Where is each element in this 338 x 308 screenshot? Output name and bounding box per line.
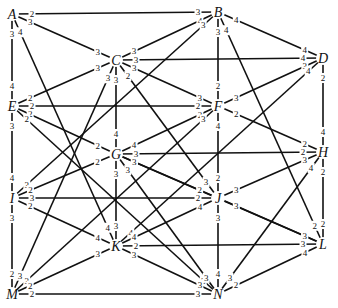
edge-weight-D-K-D: 4 bbox=[306, 66, 311, 76]
edge-weight-F-M-F: 3 bbox=[201, 114, 206, 124]
edge-weight-C-G-C: 3 bbox=[114, 75, 119, 85]
edge-weight-G-K-K: 3 bbox=[114, 221, 119, 231]
edge-weight-B-I-B: 3 bbox=[201, 20, 206, 30]
edge-weight-I-M-I: 3 bbox=[10, 213, 15, 223]
edge-weight-G-N-N: 3 bbox=[204, 273, 209, 283]
edge-weight-F-H-F: 2 bbox=[234, 109, 239, 119]
edge-weight-A-E-E: 4 bbox=[10, 81, 15, 91]
edge-G-H bbox=[116, 152, 323, 154]
edge-weight-E-I-E: 3 bbox=[10, 121, 15, 131]
node-C: C bbox=[111, 53, 121, 68]
edge-weight-E-I-I: 4 bbox=[10, 173, 15, 183]
edge-G-N bbox=[116, 154, 218, 294]
edge-weight-H-N-N: 3 bbox=[228, 273, 233, 283]
edge-weight-H-J-J: 3 bbox=[234, 185, 239, 195]
edge-weight-C-G-G: 4 bbox=[114, 129, 119, 139]
edge-weight-C-F-C: 3 bbox=[132, 63, 137, 73]
edge-weight-E-G-G: 2 bbox=[96, 141, 101, 151]
edge-weight-H-L-L: 2 bbox=[321, 219, 326, 229]
edge-C-D bbox=[116, 58, 323, 60]
edge-weight-B-F-B: 3 bbox=[216, 27, 221, 37]
edge-weight-J-N-N: 4 bbox=[216, 269, 221, 279]
edge-weight-G-I-G: 2 bbox=[95, 157, 100, 167]
edge-weight-A-K-K: 4 bbox=[106, 223, 111, 233]
weighted-graph: 2333344443443242333432333423333324442222… bbox=[0, 0, 338, 308]
edge-weight-B-L-B: 4 bbox=[224, 25, 229, 35]
node-H: H bbox=[317, 145, 329, 160]
edge-H-N bbox=[218, 152, 323, 294]
node-K: K bbox=[110, 239, 121, 254]
edge-weight-A-C-A: 3 bbox=[28, 17, 33, 27]
edge-weight-G-N-G: 3 bbox=[126, 165, 131, 175]
edge-weight-H-L-H: 2 bbox=[321, 167, 326, 177]
node-E: E bbox=[7, 99, 17, 114]
edge-weight-G-K-G: 3 bbox=[114, 169, 119, 179]
edge-weight-F-J-F: 4 bbox=[216, 121, 221, 131]
node-G: G bbox=[111, 147, 121, 162]
node-J: J bbox=[215, 191, 222, 206]
edge-weight-I-K-K: 4 bbox=[96, 233, 101, 243]
edge-weight-B-L-L: 2 bbox=[313, 221, 318, 231]
edge-weight-D-H-H: 4 bbox=[321, 127, 326, 137]
node-M: M bbox=[5, 287, 19, 302]
edge-weight-D-H-D: 2 bbox=[321, 73, 326, 83]
edge-weight-F-J-J: 2 bbox=[216, 173, 221, 183]
edge-weight-J-N-J: 3 bbox=[216, 213, 221, 223]
edges-layer bbox=[12, 12, 323, 294]
edge-weight-G-L-G: 3 bbox=[132, 157, 137, 167]
edge-weight-I-K-I: 2 bbox=[28, 201, 33, 211]
edge-weight-J-K-J: 4 bbox=[198, 202, 203, 212]
edge-weight-E-N-E: 2 bbox=[25, 114, 30, 124]
node-N: N bbox=[212, 287, 223, 302]
edge-weight-H-N-H: 4 bbox=[309, 163, 314, 173]
edge-A-B bbox=[12, 12, 218, 14]
edge-weight-A-E-A: 3 bbox=[10, 29, 15, 39]
edge-weight-C-J-C: 2 bbox=[126, 71, 131, 81]
edge-weight-A-K-A: 4 bbox=[18, 27, 23, 37]
edge-weight-K-M-K: 3 bbox=[96, 249, 101, 259]
edge-weight-K-N-K: 3 bbox=[132, 250, 137, 260]
edge-weight-C-M-C: 3 bbox=[106, 73, 111, 83]
edge-weight-L-N-L: 4 bbox=[303, 248, 308, 258]
edge-weight-C-M-M: 3 bbox=[18, 271, 23, 281]
edge-weight-C-J-J: 3 bbox=[204, 177, 209, 187]
edge-weight-H-J-H: 3 bbox=[302, 155, 307, 165]
edge-weight-J-L-J: 3 bbox=[234, 201, 239, 211]
node-A: A bbox=[7, 7, 17, 22]
edge-weight-A-C-C: 3 bbox=[95, 47, 100, 57]
node-B: B bbox=[214, 5, 223, 20]
edge-weight-B-D-B: 4 bbox=[234, 15, 239, 25]
edge-weight-I-M-M: 2 bbox=[10, 269, 15, 279]
edge-weight-M-N-N: 3 bbox=[196, 289, 201, 299]
edge-weight-D-F-F: 3 bbox=[234, 93, 239, 103]
node-D: D bbox=[317, 51, 328, 66]
edge-weight-M-N-M: 2 bbox=[30, 289, 35, 299]
node-F: F bbox=[213, 99, 223, 114]
node-L: L bbox=[318, 237, 327, 252]
edge-weight-L-N-N: 2 bbox=[234, 280, 239, 290]
edge-K-L bbox=[116, 244, 323, 246]
edge-weight-C-E-C: 3 bbox=[95, 63, 100, 73]
edge-weight-B-F-F: 2 bbox=[216, 81, 221, 91]
